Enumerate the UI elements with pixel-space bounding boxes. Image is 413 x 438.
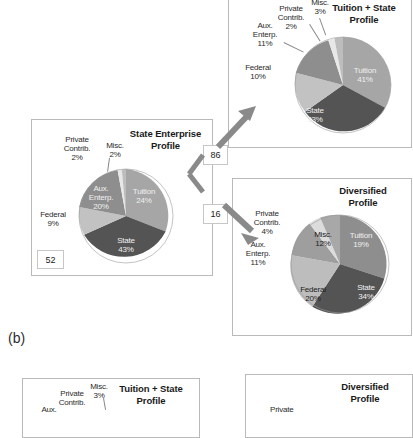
title-line-1: Tuition + State <box>119 383 183 394</box>
slice-label-private-contrib: Private Contrib. 2% <box>55 135 99 163</box>
chart-title-diversified: Diversified Profile <box>320 185 406 208</box>
slice-label-tuition: Tuition 19% <box>340 231 382 249</box>
title-line-2: Profile <box>151 140 180 151</box>
slice-label-misc: Misc. 12% <box>305 230 341 248</box>
slice-label-state: State 43% <box>106 236 146 254</box>
slice-label-misc: Misc. 2% <box>101 141 129 159</box>
title-line-2: Profile <box>137 395 166 406</box>
chart-title-tuition-state-lower: Tuition + State Profile <box>104 383 198 406</box>
slice-label-aux-enterp-lower: Aux. <box>38 405 60 414</box>
slice-label-federal: Federal 9% <box>31 210 75 228</box>
figure-caption-b: (b) <box>8 330 25 346</box>
slice-label-state: State 34% <box>346 283 386 301</box>
title-line-1: Tuition + State <box>332 2 396 13</box>
slice-label-tuition: Tuition 24% <box>123 187 165 205</box>
count-box-branch-bottom[interactable]: 16 <box>203 204 228 224</box>
chart-title-diversified-lower: Diversified Profile <box>322 381 408 404</box>
title-line-2: Profile <box>351 393 380 404</box>
slice-label-state: State 33% <box>295 106 335 124</box>
slice-label-tuition: Tuition 41% <box>344 66 386 84</box>
count-box-branch-top[interactable]: 86 <box>203 145 228 165</box>
chart-title-state-enterprise: State Enterprise Profile <box>118 128 213 151</box>
slice-label-misc: Misc. 3% <box>306 0 334 16</box>
slice-label-federal: Federal 10% <box>236 63 280 81</box>
slice-label-private-contrib: Private Contrib. 4% <box>244 209 290 237</box>
title-line-2: Profile <box>350 14 379 25</box>
count-box-state-enterprise[interactable]: 52 <box>37 250 64 269</box>
title-line-1: State Enterprise <box>130 128 201 139</box>
slice-label-aux-enterp: Aux. Enterp. 11% <box>237 240 279 268</box>
slice-label-federal: Federal 20% <box>291 285 335 303</box>
title-line-1: Diversified <box>341 381 388 392</box>
slice-label-aux-enterp: Aux. Enterp. 20% <box>82 184 120 212</box>
title-line-2: Profile <box>349 197 378 208</box>
slice-label-private-contrib-lower-right: Private <box>270 405 310 414</box>
title-line-1: Diversified <box>339 185 386 196</box>
